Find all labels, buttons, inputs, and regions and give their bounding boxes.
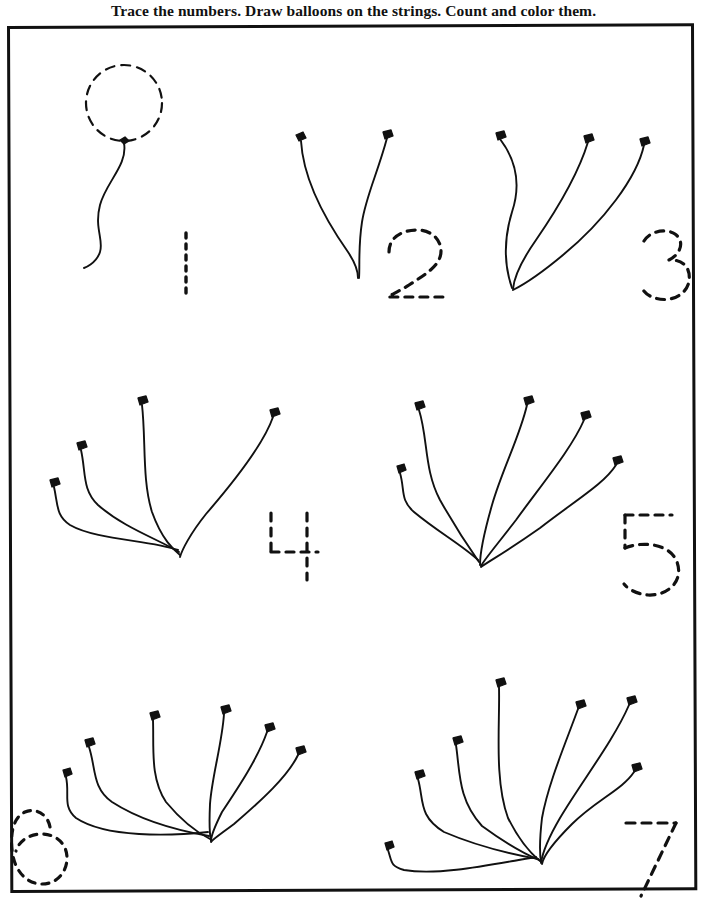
worksheet-border <box>7 23 697 893</box>
worksheet-page: Trace the numbers. Draw balloons on the … <box>0 0 707 915</box>
page-title: Trace the numbers. Draw balloons on the … <box>0 0 707 22</box>
